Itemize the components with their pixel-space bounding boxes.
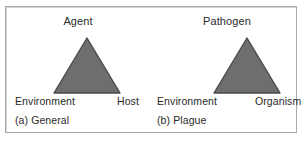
corner-label-environment-plague: Environment [157, 95, 217, 107]
figure-frame-border: Agent Environment Host (a) General Patho… [5, 6, 297, 133]
figure-container: Agent Environment Host (a) General Patho… [0, 0, 304, 143]
caption-general: (a) General [15, 114, 69, 126]
corner-label-organism: Organism [255, 95, 301, 107]
panel-general: Agent Environment Host (a) General [6, 7, 152, 134]
apex-label-agent: Agent [5, 15, 151, 27]
triangle-plague [212, 36, 282, 96]
corner-label-host: Host [117, 95, 139, 107]
triangle-shape [54, 38, 120, 93]
apex-label-pathogen: Pathogen [154, 15, 300, 27]
corner-label-environment-general: Environment [15, 95, 75, 107]
panel-plague: Pathogen Environment Organism (b) Plague [152, 7, 298, 134]
caption-plague: (b) Plague [157, 114, 206, 126]
triangle-shape [214, 38, 280, 93]
triangle-general [52, 36, 122, 96]
